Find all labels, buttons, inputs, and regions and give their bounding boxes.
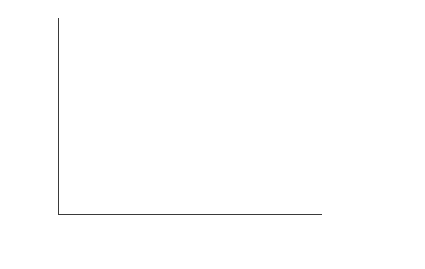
income-share-line-chart [0, 0, 425, 269]
plot-area [58, 18, 322, 215]
